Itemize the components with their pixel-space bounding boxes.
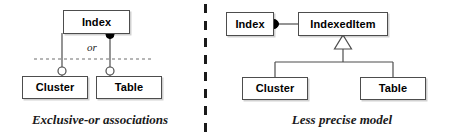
right-diagram-panel: Index IndexedItem Cluster Table Less pre… bbox=[212, 0, 472, 138]
role-circle-cluster-icon bbox=[58, 67, 66, 75]
left-class-index[interactable]: Index bbox=[63, 10, 130, 34]
right-class-index-label: Index bbox=[235, 19, 264, 30]
left-class-cluster-label: Cluster bbox=[36, 82, 75, 93]
right-caption: Less precise model bbox=[212, 112, 472, 128]
right-class-indexeditem-label: IndexedItem bbox=[310, 19, 375, 30]
xor-label: or bbox=[87, 41, 97, 53]
right-class-cluster-label: Cluster bbox=[256, 83, 295, 94]
left-caption: Exclusive-or associations bbox=[0, 112, 200, 128]
right-class-index[interactable]: Index bbox=[226, 12, 274, 36]
right-class-cluster[interactable]: Cluster bbox=[242, 77, 308, 100]
generalization-triangle-icon bbox=[335, 35, 352, 49]
left-class-index-label: Index bbox=[82, 17, 111, 28]
left-diagram-panel: Index or Cluster Table Exclusive-or asso… bbox=[0, 0, 200, 138]
left-class-table-label: Table bbox=[115, 82, 143, 93]
left-class-table[interactable]: Table bbox=[96, 76, 162, 99]
right-class-indexeditem[interactable]: IndexedItem bbox=[298, 12, 388, 36]
left-class-cluster[interactable]: Cluster bbox=[22, 76, 88, 99]
right-class-table[interactable]: Table bbox=[360, 77, 426, 100]
uml-figure: Index or Cluster Table Exclusive-or asso… bbox=[0, 0, 472, 138]
panel-divider bbox=[204, 4, 207, 134]
role-circle-table-icon bbox=[106, 67, 114, 75]
right-class-table-label: Table bbox=[379, 83, 407, 94]
